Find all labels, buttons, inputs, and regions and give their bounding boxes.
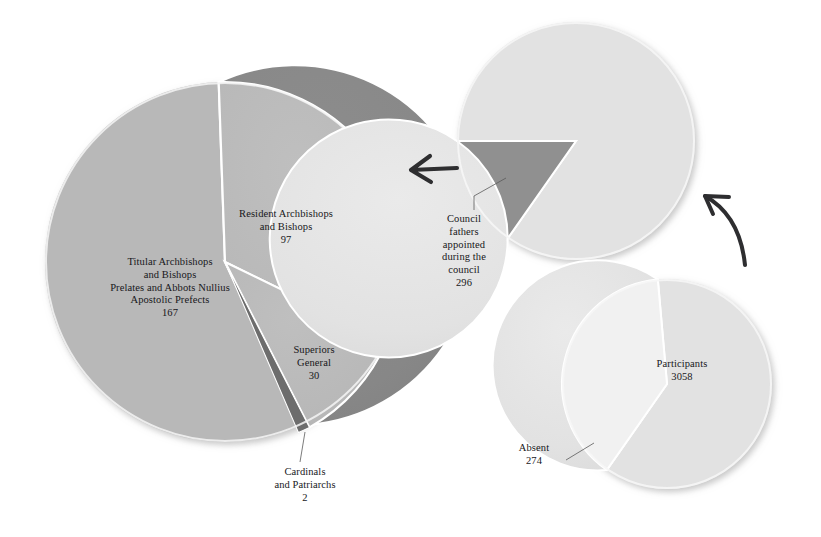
figure-canvas: Resident Archbishops and Bishops 97 Titu… (0, 0, 821, 537)
attendance-pie (493, 260, 772, 489)
arrow-curved-icon (705, 196, 745, 265)
pie-charts-svg (0, 0, 821, 537)
leader-line-cardinals (300, 432, 305, 462)
